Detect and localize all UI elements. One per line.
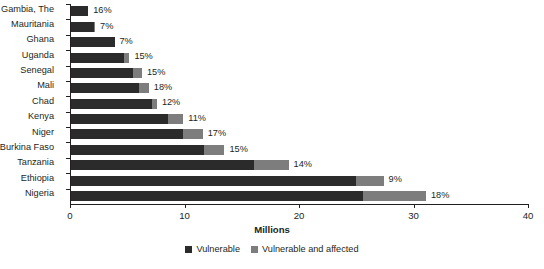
legend-swatch-icon [251, 246, 258, 253]
bar-segment-vulnerable [71, 99, 152, 109]
category-label: Nigeria [25, 188, 54, 199]
x-axis-tick [299, 204, 300, 208]
bar-segment-vulnerable [71, 114, 168, 124]
bar-value-label: 9% [389, 174, 402, 185]
bar-segment-vulnerable-and-affected [139, 83, 149, 93]
category-label: Ethiopia [21, 173, 54, 184]
bar-segment-vulnerable [71, 22, 94, 32]
bar-segment-vulnerable [71, 53, 124, 63]
y-axis-tick [66, 127, 70, 128]
bar-value-label: 7% [120, 36, 133, 47]
stacked-bar [71, 176, 384, 186]
category-label: Gambia, The [1, 4, 54, 15]
x-axis-tick [185, 204, 186, 208]
x-axis-tick-label: 30 [408, 210, 419, 222]
stacked-bar [71, 37, 115, 47]
y-axis-tick [66, 189, 70, 190]
y-axis-tick [66, 66, 70, 67]
y-axis-tick [66, 142, 70, 143]
bar-segment-vulnerable [71, 191, 363, 201]
bar-value-label: 18% [154, 82, 172, 93]
y-axis-tick [66, 35, 70, 36]
category-label: Burkina Faso [0, 142, 54, 153]
bar-row: Mauritania7% [70, 19, 528, 34]
bar-segment-vulnerable [71, 6, 88, 16]
bar-segment-vulnerable [71, 145, 204, 155]
stacked-bar [71, 160, 289, 170]
stacked-bar [71, 53, 129, 63]
bar-segment-vulnerable-and-affected [152, 99, 157, 109]
legend-item: Vulnerable [185, 244, 240, 254]
bar-segment-vulnerable [71, 129, 183, 139]
bar-segment-vulnerable-and-affected [133, 68, 142, 78]
x-axis-tick [414, 204, 415, 208]
stacked-bar [71, 114, 183, 124]
bar-segment-vulnerable-and-affected [356, 176, 383, 186]
bar-segment-vulnerable-and-affected [168, 114, 183, 124]
x-axis-tick-label: 40 [523, 210, 534, 222]
bar-value-label: 17% [208, 128, 226, 139]
bar-value-label: 15% [134, 51, 152, 62]
stacked-bar [71, 22, 95, 32]
stacked-bar [71, 99, 157, 109]
stacked-bar-chart: Gambia, The16%Mauritania7%Ghana7%Uganda1… [0, 0, 544, 269]
bar-row: Kenya11% [70, 112, 528, 127]
x-axis-tick-label: 10 [179, 210, 190, 222]
bar-row: Niger17% [70, 127, 528, 142]
stacked-bar [71, 83, 149, 93]
x-axis-title: Millions [0, 224, 544, 235]
bar-segment-vulnerable-and-affected [363, 191, 426, 201]
x-axis-tick-label: 0 [67, 210, 72, 222]
plot-area: Gambia, The16%Mauritania7%Ghana7%Uganda1… [70, 4, 528, 204]
y-axis-tick [66, 81, 70, 82]
stacked-bar [71, 191, 426, 201]
bar-segment-vulnerable-and-affected [183, 129, 202, 139]
chart-legend: VulnerableVulnerable and affected [0, 244, 544, 254]
bar-row: Tanzania14% [70, 158, 528, 173]
bar-row: Nigeria18% [70, 189, 528, 204]
category-label: Mali [37, 80, 54, 91]
x-axis-tick [70, 204, 71, 208]
x-axis-tick [528, 204, 529, 208]
legend-item: Vulnerable and affected [251, 244, 359, 254]
bar-segment-vulnerable [71, 37, 115, 47]
bar-row: Burkina Faso15% [70, 142, 528, 157]
category-label: Tanzania [17, 157, 54, 168]
bar-value-label: 18% [431, 190, 449, 201]
bar-segment-vulnerable [71, 160, 254, 170]
stacked-bar [71, 68, 142, 78]
category-label: Ghana [26, 34, 54, 45]
legend-label: Vulnerable [196, 244, 240, 254]
category-label: Senegal [20, 65, 54, 76]
bar-value-label: 16% [93, 5, 111, 16]
bar-value-label: 11% [188, 113, 206, 124]
legend-label: Vulnerable and affected [262, 244, 359, 254]
x-axis-tick-label: 20 [294, 210, 305, 222]
y-axis-tick [66, 158, 70, 159]
y-axis-tick [66, 173, 70, 174]
bar-segment-vulnerable-and-affected [204, 145, 225, 155]
bar-row: Ethiopia9% [70, 173, 528, 188]
bar-segment-vulnerable [71, 176, 356, 186]
bar-row: Mali18% [70, 81, 528, 96]
bar-segment-vulnerable-and-affected [94, 22, 95, 32]
y-axis-tick [66, 112, 70, 113]
category-label: Niger [32, 127, 54, 138]
bar-value-label: 15% [147, 67, 165, 78]
y-axis-tick [66, 19, 70, 20]
bar-row: Uganda15% [70, 50, 528, 65]
category-label: Chad [32, 96, 54, 107]
bar-row: Ghana7% [70, 35, 528, 50]
stacked-bar [71, 6, 88, 16]
category-label: Uganda [22, 50, 54, 61]
bar-segment-vulnerable-and-affected [124, 53, 130, 63]
bar-row: Senegal15% [70, 66, 528, 81]
stacked-bar [71, 145, 224, 155]
bar-row: Gambia, The16% [70, 4, 528, 19]
legend-swatch-icon [185, 246, 192, 253]
y-axis-tick [66, 4, 70, 5]
category-label: Mauritania [11, 19, 54, 30]
bar-row: Chad12% [70, 96, 528, 111]
bar-value-label: 7% [100, 21, 113, 32]
bar-segment-vulnerable [71, 83, 139, 93]
